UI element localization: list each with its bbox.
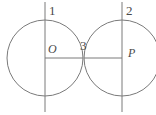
geometry-figure: 1 2 3 O P xyxy=(0,0,156,115)
label-center-o: O xyxy=(48,43,57,55)
label-line-2: 2 xyxy=(126,4,133,17)
label-center-p: P xyxy=(128,47,135,59)
label-tangent-point-3: 3 xyxy=(80,39,87,52)
label-line-1: 1 xyxy=(49,4,56,17)
